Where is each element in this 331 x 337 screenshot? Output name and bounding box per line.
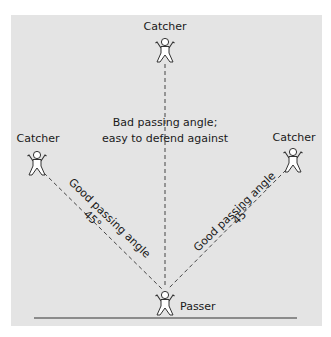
passer-icon: [156, 291, 175, 315]
good-angle-line-left: [44, 173, 162, 289]
bad-angle-label-line2: easy to defend against: [102, 132, 229, 145]
right-catcher-label: Catcher: [272, 131, 316, 144]
top-catcher-label: Catcher: [143, 20, 187, 33]
right-catcher-icon: [284, 148, 303, 172]
good-angle-label-left: Good passing angle: [66, 176, 153, 261]
passer-label: Passer: [180, 300, 216, 313]
bad-angle-label-line1: Bad passing angle;: [113, 116, 218, 129]
left-catcher-label: Catcher: [16, 132, 60, 145]
top-catcher-icon: [156, 38, 175, 62]
left-catcher-icon: [28, 151, 47, 175]
good-angle-label-right: Good passing angle: [191, 169, 278, 254]
passing-diagram: Catcher Catcher Catcher Passer Bad passi…: [0, 0, 331, 337]
